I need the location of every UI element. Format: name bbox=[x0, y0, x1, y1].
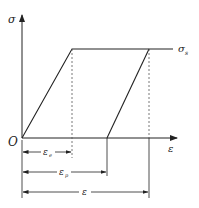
y-axis-label: σ bbox=[8, 13, 16, 26]
plastic-strain-dimension: ε p bbox=[23, 167, 106, 179]
svg-text:s: s bbox=[185, 49, 188, 56]
svg-text:e: e bbox=[49, 152, 52, 158]
yield-stress-label: σ s bbox=[178, 43, 188, 56]
stress-strain-diagram: σ ε O σ s ε e ε p ε bbox=[0, 0, 199, 208]
stress-strain-curve bbox=[22, 49, 173, 138]
total-strain-dimension: ε bbox=[23, 187, 148, 197]
svg-text:ε: ε bbox=[82, 187, 87, 197]
svg-text:ε: ε bbox=[43, 147, 48, 157]
svg-text:p: p bbox=[65, 172, 69, 179]
origin-label: O bbox=[8, 135, 18, 149]
unloading-line bbox=[107, 49, 149, 138]
x-axis-label: ε bbox=[168, 143, 173, 154]
elastic-strain-dimension: ε e bbox=[23, 147, 71, 158]
svg-text:ε: ε bbox=[59, 167, 64, 177]
